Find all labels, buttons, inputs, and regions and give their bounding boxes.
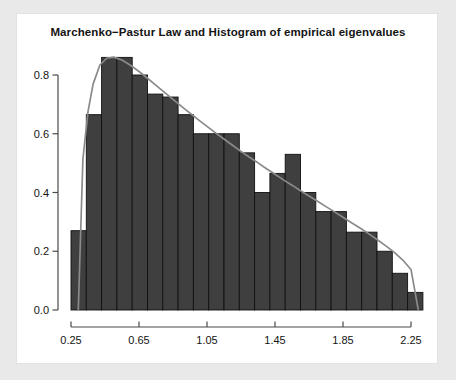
chart-canvas: 0.00.20.40.60.8 0.250.651.051.451.852.25 xyxy=(0,0,456,380)
x-axis-tick-label: 2.25 xyxy=(400,334,421,346)
x-axis: 0.250.651.051.451.852.25 xyxy=(60,322,421,347)
figure-root: Marchenko−Pastur Law and Histogram of em… xyxy=(0,0,456,380)
histogram-bar xyxy=(178,115,193,310)
histogram-bar xyxy=(102,57,117,310)
histogram-bar xyxy=(148,94,163,310)
histogram-bar xyxy=(392,273,407,310)
histogram-bar xyxy=(86,115,101,310)
histogram-bar xyxy=(270,173,285,310)
histogram-bar xyxy=(331,212,346,310)
histogram-bar xyxy=(377,251,392,310)
histogram-bar xyxy=(301,193,316,311)
histogram-bar xyxy=(193,134,208,310)
y-axis-tick-label: 0.4 xyxy=(34,187,49,199)
y-axis-tick-label: 0.2 xyxy=(34,245,49,257)
histogram-bar xyxy=(255,193,270,311)
histogram-bar xyxy=(316,212,331,310)
histogram-bar xyxy=(224,134,239,310)
x-axis-tick-label: 1.05 xyxy=(196,334,217,346)
histogram-bar xyxy=(117,57,132,310)
x-axis-tick-label: 1.45 xyxy=(264,334,285,346)
y-axis-tick-label: 0.8 xyxy=(34,69,49,81)
histogram-bar xyxy=(346,232,361,310)
x-axis-tick-label: 1.85 xyxy=(332,334,353,346)
histogram-bars xyxy=(71,57,423,310)
histogram-bar xyxy=(239,153,254,310)
y-axis: 0.00.20.40.60.8 xyxy=(34,69,58,316)
histogram-bar xyxy=(209,134,224,310)
histogram-bar xyxy=(362,232,377,310)
y-axis-tick-label: 0.6 xyxy=(34,128,49,140)
y-axis-tick-label: 0.0 xyxy=(34,304,49,316)
histogram-bar xyxy=(285,154,300,310)
histogram-bar xyxy=(132,75,147,310)
x-axis-tick-label: 0.65 xyxy=(128,334,149,346)
histogram-bar xyxy=(163,97,178,310)
x-axis-tick-label: 0.25 xyxy=(60,334,81,346)
